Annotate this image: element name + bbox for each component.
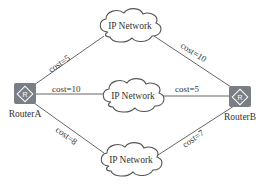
cost-label-top-routerB: cost=10 (179, 40, 209, 64)
network-diagram: cost=5 cost=10 cost=10 cost=5 cost=8 cos… (0, 0, 266, 188)
cost-label-bottom-routerB: cost=7 (180, 127, 206, 149)
svg-text:R: R (22, 91, 27, 98)
cloud-label: IP Network (108, 21, 152, 31)
cost-label-routerA-top: cost=5 (46, 52, 72, 74)
cloud-net-top: IP Network (100, 9, 161, 42)
router-label: RouterB (224, 112, 256, 122)
cloud-label: IP Network (109, 155, 153, 165)
link-net-top-routerB (154, 36, 234, 89)
router-b: R RouterB (224, 86, 256, 122)
cost-label-routerA-middle: cost=10 (52, 84, 81, 94)
router-label: RouterA (9, 109, 42, 119)
svg-text:R: R (237, 94, 242, 101)
router-a: R RouterA (9, 83, 42, 119)
router-icon: R (14, 83, 36, 104)
router-icon: R (229, 86, 251, 107)
cloud-net-bottom: IP Network (101, 143, 162, 176)
cloud-label: IP Network (111, 91, 155, 101)
cost-label-middle-routerB: cost=5 (175, 84, 200, 94)
cost-label-routerA-bottom: cost=8 (54, 125, 80, 148)
link-routerA-net-bottom (34, 103, 104, 153)
cloud-net-middle: IP Network (103, 79, 164, 112)
